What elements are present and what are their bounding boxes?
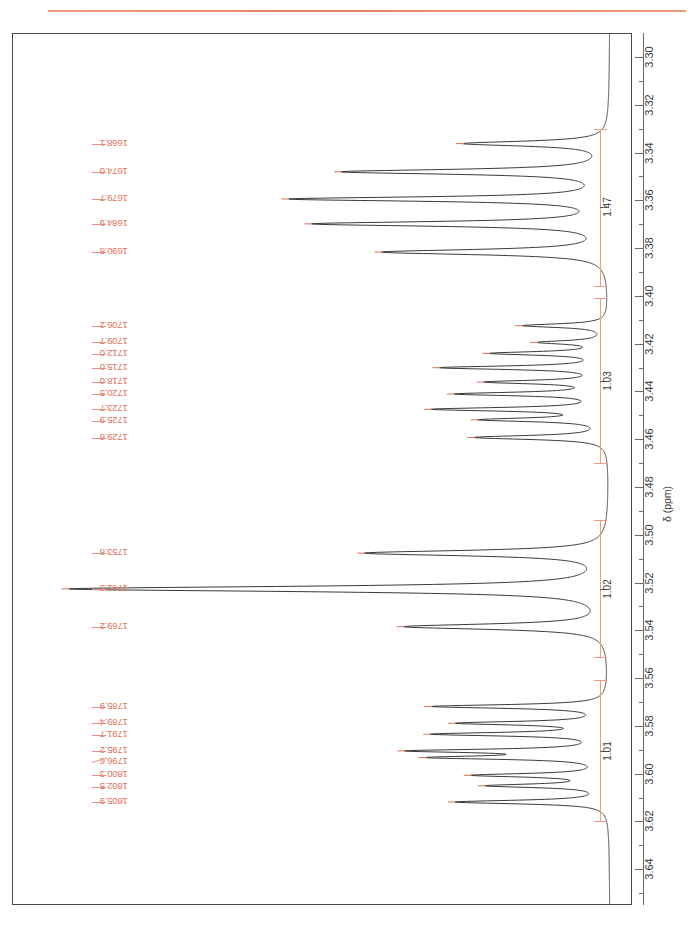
peak-label-column: 1668.11674.01679.71684.91690.81706.21709… [0, 33, 110, 905]
axis-tick-label: 3.40 [643, 285, 655, 306]
axis-title: δ (ppm) [661, 486, 673, 522]
integral-column: 1.471.031.021.01 [588, 33, 632, 905]
peak-label-leader [92, 775, 106, 776]
peak-label-leader [92, 368, 106, 369]
peak-label-leader [92, 342, 106, 343]
axis-tick-label: 3.46 [643, 428, 655, 449]
axis-tick-label: 3.42 [643, 333, 655, 354]
peak-label-leader [92, 589, 106, 590]
integral-value: 1.02 [602, 579, 613, 598]
ppm-axis-labels: 3.303.323.343.363.383.403.423.443.463.48… [643, 33, 698, 905]
axis-tick-label: 3.32 [643, 94, 655, 115]
axis-tick-label: 3.60 [643, 763, 655, 784]
peak-label-leader [92, 394, 106, 395]
axis-tick-label: 3.64 [643, 858, 655, 879]
peak-label-leader [92, 224, 106, 225]
axis-tick-label: 3.38 [643, 237, 655, 258]
peak-label-leader [92, 735, 106, 736]
peak-label-leader [92, 553, 106, 554]
peak-label-leader [92, 707, 106, 708]
integral-value: 1.01 [602, 741, 613, 760]
peak-label-leader [92, 172, 106, 173]
peak-label-leader [92, 252, 106, 253]
peak-label-leader [92, 199, 106, 200]
spectrum-curve [69, 33, 609, 905]
peak-label-leader [92, 144, 106, 145]
integral-bar-cap [594, 463, 607, 464]
integral-bar-cap [594, 680, 607, 681]
peak-label-leader [92, 382, 106, 383]
integral-value: 1.03 [602, 371, 613, 390]
peak-label-leader [92, 326, 106, 327]
axis-tick-label: 3.36 [643, 189, 655, 210]
axis-tick-label: 3.50 [643, 524, 655, 545]
integral-bar-cap [594, 520, 607, 521]
peak-label-leader [92, 409, 106, 410]
integral-bar-cap [594, 298, 607, 299]
peak-label-leader [92, 723, 106, 724]
axis-tick-label: 3.30 [643, 46, 655, 67]
peak-label-leader [92, 627, 106, 628]
integral-bar-cap [594, 821, 607, 822]
integral-bar-cap [594, 657, 607, 658]
axis-tick-label: 3.48 [643, 476, 655, 497]
axis-tick-label: 3.44 [643, 381, 655, 402]
peak-label-leader [92, 354, 106, 355]
axis-tick-label: 3.58 [643, 715, 655, 736]
peak-label-leader [92, 438, 106, 439]
integral-value: 1.47 [602, 198, 613, 217]
axis-tick-label: 3.52 [643, 572, 655, 593]
axis-tick-label: 3.56 [643, 667, 655, 688]
peak-label-leader [92, 751, 106, 752]
integral-bar-cap [594, 286, 607, 287]
axis-tick-label: 3.62 [643, 811, 655, 832]
header-rule [48, 10, 686, 12]
integral-bar-cap [594, 129, 607, 130]
peak-label-leader [92, 802, 106, 803]
axis-tick-label: 3.34 [643, 142, 655, 163]
peak-label-leader [92, 421, 106, 422]
axis-tick-label: 3.54 [643, 620, 655, 641]
peak-label-leader [92, 787, 106, 788]
